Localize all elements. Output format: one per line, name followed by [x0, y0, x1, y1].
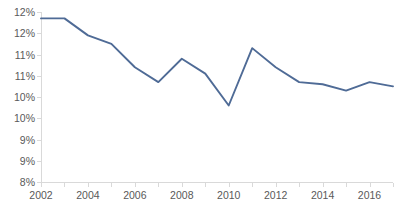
x-axis-tick	[135, 183, 136, 187]
x-axis-tick-label: 2016	[358, 190, 381, 201]
y-axis-tick-label: 12%	[14, 7, 35, 18]
y-axis-tick	[37, 161, 41, 162]
y-axis-tick-label: 8%	[20, 177, 35, 188]
chart-title	[0, 0, 409, 6]
y-axis-tick-label: 10%	[14, 113, 35, 124]
x-axis-tick	[229, 183, 230, 187]
plot-area: 12%12%11%11%10%10%9%9%8%	[41, 12, 393, 182]
x-axis-tick-label: 2004	[76, 190, 99, 201]
x-axis-tick-label: 2014	[311, 190, 334, 201]
y-axis-tick	[37, 97, 41, 98]
x-axis-tick	[370, 183, 371, 187]
y-axis-tick-label: 9%	[20, 134, 35, 145]
line-chart: 12%12%11%11%10%10%9%9%8% 200220042006200…	[0, 0, 409, 220]
x-axis-tick-label: 2002	[29, 190, 52, 201]
x-axis-tick	[323, 183, 324, 187]
x-axis-tick	[88, 183, 89, 187]
y-axis-tick	[37, 33, 41, 34]
x-axis-tick	[111, 183, 112, 187]
x-axis-line	[41, 182, 393, 183]
y-axis-tick	[37, 76, 41, 77]
x-axis-tick	[41, 183, 42, 187]
y-axis-tick-label: 9%	[20, 156, 35, 167]
y-axis-tick	[37, 12, 41, 13]
x-axis-tick	[252, 183, 253, 187]
x-axis-tick	[182, 183, 183, 187]
series-plot	[41, 12, 393, 182]
y-axis-tick-label: 10%	[14, 92, 35, 103]
x-axis-tick	[299, 183, 300, 187]
x-axis-tick	[346, 183, 347, 187]
x-axis-tick	[205, 183, 206, 187]
y-axis-tick-label: 11%	[15, 71, 35, 82]
x-axis-tick	[64, 183, 65, 187]
y-axis-tick-label: 11%	[15, 49, 35, 60]
x-axis-tick-label: 2008	[170, 190, 193, 201]
y-axis-tick	[37, 55, 41, 56]
series-line-rate	[41, 18, 393, 105]
x-axis-tick-label: 2012	[264, 190, 287, 201]
y-axis-tick	[37, 118, 41, 119]
y-axis-tick	[37, 140, 41, 141]
x-axis-tick-label: 2010	[217, 190, 240, 201]
x-axis-tick	[158, 183, 159, 187]
x-axis-tick	[276, 183, 277, 187]
x-axis-tick-label: 2006	[123, 190, 146, 201]
y-axis-tick-label: 12%	[14, 28, 35, 39]
x-axis-tick	[393, 183, 394, 187]
